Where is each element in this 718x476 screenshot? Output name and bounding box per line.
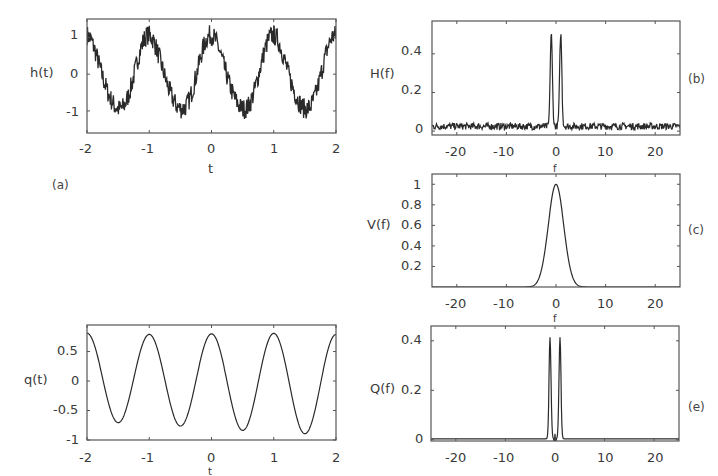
plot-c-xtick: 20 [647,296,664,311]
plot-a-xtick: -2 [79,141,92,156]
plot-b-axes [432,21,680,135]
plot-e-line [431,337,679,441]
plot-c-xtick: 0 [552,296,560,311]
plot-a-ytick: 1 [70,27,78,42]
plot-d-xtick: 0 [207,450,215,465]
plot-b-xtick: -10 [493,144,514,159]
plot-a-ylabel: h(t) [30,65,53,80]
plot-d-ytick: -0.5 [53,402,78,417]
plot-d-xtick: -1 [141,450,154,465]
plot-d-ytick: 0 [71,373,79,388]
plot-b-xtick: 0 [552,144,560,159]
plot-c-ytick: 0.6 [401,217,422,232]
plot-b-xtick: -20 [445,144,466,159]
plot-d-xtick: 1 [270,450,278,465]
plot-e-frame [431,326,679,441]
plot-a-line [87,25,336,119]
plot-b-frame [432,21,680,135]
plot-c-ytick: 0.8 [401,197,422,212]
plot-a-ytick: -1 [66,104,79,119]
plot-d-ylabel: q(t) [24,372,48,387]
plot-b-xtick: 20 [647,144,664,159]
plot-b-ytick: 0.2 [401,82,422,97]
plot-c-axes [432,174,680,287]
figure-canvas [0,0,718,476]
plot-e-xtick: -10 [493,450,514,465]
plot-c-frame [432,174,680,287]
plot-d-axes [87,325,336,440]
plot-a-ytick: 0 [70,66,78,81]
plot-c-ytick: 0.2 [401,258,422,273]
plot-c-ylabel: V(f) [367,217,391,232]
plot-d-ytick: -1 [66,432,79,447]
plot-e-xtick: 20 [647,450,664,465]
plot-c-ytick: 0.4 [401,238,422,253]
plot-d-xtick: 2 [332,450,340,465]
plot-a-xtick: 1 [270,141,278,156]
plot-c-xlabel: f [553,313,557,324]
plot-c-ytick: 1 [413,177,421,192]
panel-label-b: (b) [688,72,705,86]
plot-b-ytick: 0.4 [401,43,422,58]
plot-a-axes [87,19,336,133]
plot-c-line [432,184,680,287]
plot-a-xtick: 0 [207,141,215,156]
plot-a-frame [87,19,336,133]
plot-c-xtick: -20 [445,296,466,311]
panel-label-e: (e) [688,400,705,414]
plot-d-xtick: -2 [79,450,92,465]
plot-d-ytick: 0.5 [57,343,78,358]
plot-e-xtick: -20 [445,450,466,465]
plot-b-xtick: 10 [597,144,614,159]
plot-e-axes [431,326,679,441]
panel-label-a: (a) [52,178,69,192]
plot-e-ytick: 0 [415,431,423,446]
plot-d-xlabel: t [208,466,212,476]
plot-c-xtick: 10 [597,296,614,311]
plot-b-ytick: 0 [415,121,423,136]
plot-a-xtick: -1 [141,141,154,156]
plot-e-ylabel: Q(f) [370,381,395,396]
plot-e-ytick: 0.4 [401,332,422,347]
plot-e-xtick: 10 [597,450,614,465]
plot-d-line [87,333,336,434]
panel-label-c: (c) [688,223,704,237]
plot-e-ytick: 0.2 [401,382,422,397]
plot-a-xtick: 2 [332,141,340,156]
plot-b-line [432,34,680,130]
plot-b-xlabel: f [553,163,557,174]
plot-c-xtick: -10 [493,296,514,311]
plot-b-ylabel: H(f) [370,66,395,81]
plot-e-xtick: 0 [551,450,559,465]
plot-a-xlabel: t [208,161,213,176]
